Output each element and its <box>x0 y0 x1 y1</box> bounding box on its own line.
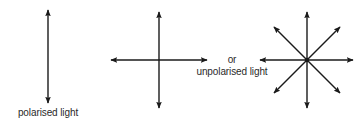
star-center-dot <box>305 58 309 62</box>
unpolarised-light-label: unpolarised light <box>182 66 282 78</box>
or-label: or <box>210 54 254 66</box>
figure-cross <box>111 12 207 108</box>
polarised-light-label: polarised light <box>8 107 88 119</box>
